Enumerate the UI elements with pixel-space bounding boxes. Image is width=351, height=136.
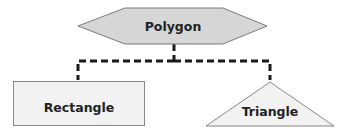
- triangle-node[interactable]: Triangle: [206, 82, 334, 126]
- connector-right-branch: [174, 61, 270, 80]
- connector-left-branch: [78, 61, 174, 80]
- rectangle-label: Rectangle: [44, 100, 115, 115]
- polygon-node[interactable]: Polygon: [78, 8, 267, 44]
- polygon-hierarchy-diagram: Polygon Rectangle Triangle: [0, 0, 351, 136]
- polygon-label: Polygon: [145, 19, 202, 34]
- rectangle-node[interactable]: Rectangle: [14, 82, 145, 126]
- triangle-label: Triangle: [242, 104, 299, 119]
- connector-lines: [78, 44, 270, 80]
